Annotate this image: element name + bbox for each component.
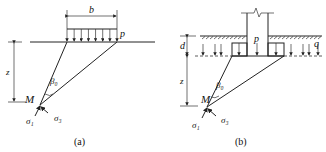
sigma1-label: σ₁ <box>26 116 34 126</box>
hatch-mark <box>298 37 301 40</box>
hatch-mark <box>230 37 233 40</box>
caption-b: (b) <box>235 136 247 148</box>
sigma3-arrow <box>208 109 216 116</box>
depth-label: z <box>179 76 184 86</box>
hatch-mark <box>270 37 273 40</box>
hatch-mark <box>278 37 281 40</box>
hatch-mark <box>238 37 241 40</box>
surcharge-label: q <box>314 38 319 49</box>
hatch-mark <box>306 37 309 40</box>
hatch-mark <box>202 37 205 40</box>
hatch-mark <box>222 37 225 40</box>
embed-label: d <box>180 40 186 51</box>
hatch-mark <box>226 37 229 40</box>
hatch-mark <box>206 37 209 40</box>
sigma3-label: σ₃ <box>221 115 229 125</box>
angle-label: β₀ <box>49 76 58 86</box>
hatch-mark <box>302 37 305 40</box>
soil-hatch <box>202 37 321 40</box>
hatch-mark <box>282 37 285 40</box>
break-symbol <box>241 8 274 17</box>
hatch-mark <box>234 37 237 40</box>
depth-label: z <box>5 67 10 77</box>
sigma1-label: σ₁ <box>192 120 200 130</box>
distributed-load: p <box>67 28 125 41</box>
depth-dimension: z <box>179 57 198 106</box>
point-label: M <box>24 93 35 105</box>
width-label: b <box>89 4 94 15</box>
width-dimension: b <box>67 4 117 29</box>
footing-load <box>239 43 276 55</box>
hatch-mark <box>218 37 221 40</box>
hatch-mark <box>210 37 213 40</box>
load-label: p <box>119 28 125 39</box>
hatch-mark <box>290 37 293 40</box>
depth-dimension: z <box>5 43 26 102</box>
angle-arc <box>45 94 53 96</box>
surcharge-load <box>203 44 318 55</box>
caption-a: (a) <box>74 136 85 148</box>
hatch-mark <box>242 37 245 40</box>
hatch-mark <box>286 37 289 40</box>
sigma3-arrow <box>41 107 48 113</box>
hatch-mark <box>294 37 297 40</box>
angle-label: β₀ <box>215 80 224 90</box>
embed-dimension: d <box>180 37 187 55</box>
load-label: p <box>253 33 259 44</box>
sigma3-label: σ₃ <box>54 113 62 123</box>
panel-b: p q d β₀ z M σ₁ σ₃ (b) <box>179 8 322 148</box>
panel-a: b p β₀ z M σ₁ σ₃ (a) <box>5 4 155 148</box>
sigma1-arrow <box>202 108 207 118</box>
ray-left <box>40 42 67 105</box>
sigma1-arrow <box>35 106 40 116</box>
point-label: M <box>200 93 211 105</box>
hatch-mark <box>214 37 217 40</box>
hatch-mark <box>274 37 277 40</box>
ray-right <box>40 42 117 105</box>
column <box>241 8 274 56</box>
stress-diagram: b p β₀ z M σ₁ σ₃ (a) <box>0 0 326 152</box>
hatch-mark <box>310 37 313 40</box>
